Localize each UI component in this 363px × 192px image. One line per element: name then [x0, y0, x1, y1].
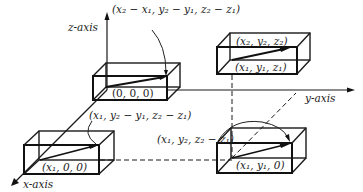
x-box-vector-label: (x₁, y₂ − y₁, z₂ − z₁)	[89, 109, 191, 121]
x-box-label: (x₁, 0, 0)	[42, 161, 87, 173]
origin-box-label: (0, 0, 0)	[112, 87, 154, 99]
z-axis	[105, 12, 110, 90]
y-axis-label: y-axis	[304, 92, 336, 104]
x-box-vector-pointer	[88, 121, 96, 144]
vector-translation-diagram: z-axis y-axis x-axis (0, 0, 0) (x₂ − x₁,…	[0, 0, 363, 192]
z-axis-arrow-icon	[105, 12, 110, 20]
rotated-vector-label: (x₁, y₂, z₂ − z₁)	[157, 133, 234, 145]
x-axis-label: x-axis	[23, 178, 54, 190]
translated-vector-pointer	[152, 30, 166, 72]
top-right-box-start-label: (x₁, y₁, z₁)	[235, 61, 287, 73]
top-right-box-end-label: (x₂, y₂, z₂)	[236, 35, 288, 47]
y-axis-arrow-icon	[347, 88, 355, 93]
bottom-right-box-label: (x₁, y₁, 0)	[236, 159, 285, 171]
z-axis-label: z-axis	[67, 21, 99, 33]
translated-vector-label: (x₂ − x₁, y₂ − y₁, z₂ − z₁)	[112, 3, 240, 15]
